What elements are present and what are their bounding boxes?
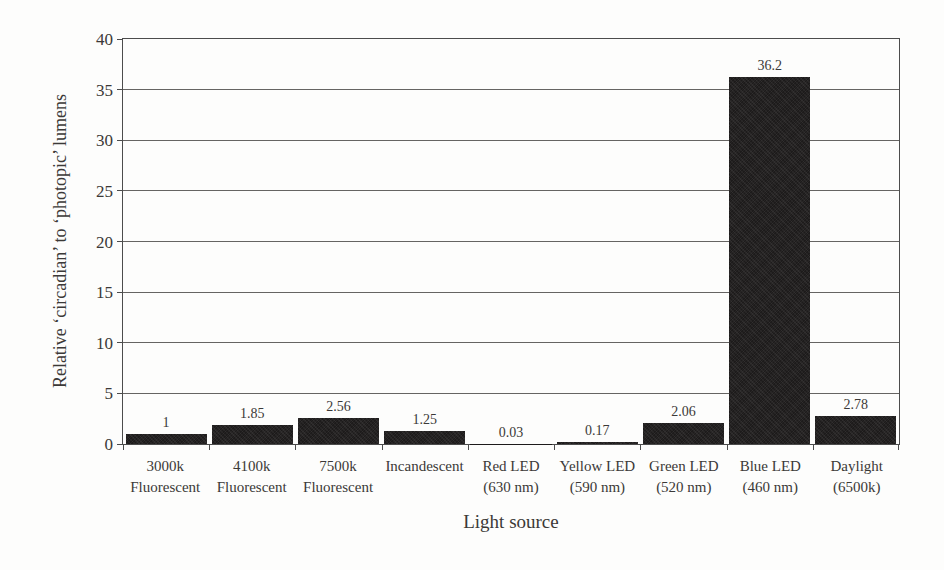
y-tick-mark-35 xyxy=(117,89,123,90)
x-category-label-line: (520 nm) xyxy=(641,477,727,498)
bar-slot: 2.78 xyxy=(813,39,899,444)
x-category-label-line: (460 nm) xyxy=(727,477,813,498)
x-category-label-line: Red LED xyxy=(468,456,554,477)
bar-slot: 36.2 xyxy=(727,39,813,444)
x-category-label-line: 3000k xyxy=(122,456,208,477)
x-category-label-line: Yellow LED xyxy=(554,456,640,477)
x-axis-category-labels: 3000kFluorescent4100kFluorescent7500kFlu… xyxy=(122,456,900,498)
x-tick-mark xyxy=(295,444,296,450)
x-tick-mark xyxy=(554,444,555,450)
bar-value-label: 2.06 xyxy=(671,404,696,420)
bar-yellow-led-590-nm xyxy=(557,442,638,444)
x-category-label: 4100kFluorescent xyxy=(208,456,294,498)
bar-value-label: 2.78 xyxy=(844,397,869,413)
bar-value-label: 2.56 xyxy=(326,399,351,415)
x-category-label-line: Blue LED xyxy=(727,456,813,477)
bar-slot: 0.17 xyxy=(554,39,640,444)
x-tick-mark xyxy=(640,444,641,450)
x-category-label: Yellow LED(590 nm) xyxy=(554,456,640,498)
x-category-label: Green LED(520 nm) xyxy=(641,456,727,498)
bar-slot: 1 xyxy=(123,39,209,444)
y-tick-mark-30 xyxy=(117,140,123,141)
x-tick-mark xyxy=(727,444,728,450)
y-tick-label-20: 20 xyxy=(96,233,113,250)
y-tick-mark-5 xyxy=(117,393,123,394)
x-tick-mark xyxy=(382,444,383,450)
x-tick-mark xyxy=(468,444,469,450)
bar-slot: 2.06 xyxy=(640,39,726,444)
y-tick-label-15: 15 xyxy=(96,284,113,301)
x-category-label-line: Fluorescent xyxy=(295,477,381,498)
x-tick-mark xyxy=(813,444,814,450)
bar-slot: 2.56 xyxy=(295,39,381,444)
y-tick-mark-40 xyxy=(117,39,123,40)
bar-chart-figure: Relative ‘circadian’ to ‘photopic’ lumen… xyxy=(0,0,944,570)
y-tick-label-5: 5 xyxy=(105,385,114,402)
bar-green-led-520-nm xyxy=(643,423,724,444)
y-tick-mark-10 xyxy=(117,342,123,343)
x-category-label-line: Fluorescent xyxy=(122,477,208,498)
x-category-label-line: (6500k) xyxy=(814,477,900,498)
y-tick-mark-15 xyxy=(117,292,123,293)
bar-slot: 1.25 xyxy=(382,39,468,444)
bar-3000k-fluorescent xyxy=(126,434,207,444)
x-category-label: 3000kFluorescent xyxy=(122,456,208,498)
x-category-label: Daylight(6500k) xyxy=(814,456,900,498)
x-category-label-line: (630 nm) xyxy=(468,477,554,498)
bar-value-label: 1.25 xyxy=(413,412,438,428)
bar-value-label: 0.03 xyxy=(499,425,524,441)
bar-incandescent xyxy=(384,431,465,444)
bar-slot: 1.85 xyxy=(209,39,295,444)
x-category-label: Red LED(630 nm) xyxy=(468,456,554,498)
plot-area: 11.852.561.250.030.172.0636.22.78 051015… xyxy=(122,38,900,445)
x-category-label: Incandescent xyxy=(381,456,467,498)
y-tick-label-40: 40 xyxy=(96,31,113,48)
y-axis-title: Relative ‘circadian’ to ‘photopic’ lumen… xyxy=(50,94,71,388)
x-axis-title: Light source xyxy=(122,511,900,533)
x-category-label-line: Incandescent xyxy=(381,456,467,477)
y-tick-label-10: 10 xyxy=(96,334,113,351)
x-category-label-line: (590 nm) xyxy=(554,477,640,498)
bar-value-label: 0.17 xyxy=(585,423,610,439)
y-tick-label-30: 30 xyxy=(96,132,113,149)
bar-value-label: 36.2 xyxy=(757,58,782,74)
x-tick-mark xyxy=(209,444,210,450)
bar-daylight-6500k xyxy=(815,416,896,444)
y-tick-mark-25 xyxy=(117,190,123,191)
x-category-label-line: 7500k xyxy=(295,456,381,477)
y-tick-label-0: 0 xyxy=(105,436,114,453)
x-category-label-line: 4100k xyxy=(208,456,294,477)
bar-blue-led-460-nm xyxy=(729,77,810,444)
bar-4100k-fluorescent xyxy=(212,425,293,444)
y-tick-label-35: 35 xyxy=(96,81,113,98)
x-category-label-line: Green LED xyxy=(641,456,727,477)
bar-7500k-fluorescent xyxy=(298,418,379,444)
bar-value-label: 1 xyxy=(163,415,170,431)
x-category-label: 7500kFluorescent xyxy=(295,456,381,498)
x-category-label-line: Fluorescent xyxy=(208,477,294,498)
x-category-label: Blue LED(460 nm) xyxy=(727,456,813,498)
y-tick-mark-20 xyxy=(117,241,123,242)
x-tick-mark xyxy=(123,444,124,450)
bar-value-label: 1.85 xyxy=(240,406,265,422)
bars-container: 11.852.561.250.030.172.0636.22.78 xyxy=(123,39,899,444)
x-category-label-line: Daylight xyxy=(814,456,900,477)
x-tick-mark xyxy=(898,444,899,450)
bar-slot: 0.03 xyxy=(468,39,554,444)
y-tick-label-25: 25 xyxy=(96,182,113,199)
